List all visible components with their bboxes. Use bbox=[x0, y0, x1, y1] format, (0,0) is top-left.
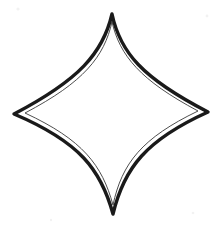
four-pointed-star-figure bbox=[0, 0, 224, 229]
paper-speck bbox=[206, 15, 209, 18]
paper-speck bbox=[192, 212, 195, 215]
paper-speck bbox=[16, 7, 19, 10]
drawing-canvas bbox=[0, 0, 224, 229]
paper-speck bbox=[50, 219, 52, 221]
